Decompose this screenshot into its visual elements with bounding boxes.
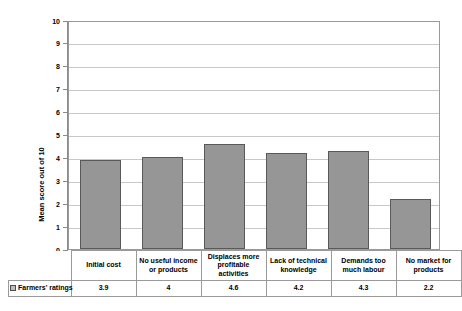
value-cell-1: 4 (136, 281, 201, 297)
y-tick-mark-7 (63, 89, 67, 90)
y-tick-mark-2 (63, 204, 67, 205)
y-tick-label-9: 9 (18, 40, 60, 47)
y-tick-label-3: 3 (18, 178, 60, 185)
gridline-4 (69, 159, 439, 160)
legend-swatch-icon (10, 285, 16, 291)
table-row-categories: Initial costNo useful income or products… (9, 251, 462, 281)
bar-5 (390, 199, 431, 249)
gridline-5 (69, 136, 439, 137)
y-tick-label-7: 7 (18, 86, 60, 93)
y-tick-mark-5 (63, 135, 67, 136)
y-tick-label-10: 10 (18, 18, 60, 25)
value-cell-3: 4.2 (266, 281, 331, 297)
y-tick-label-1: 1 (18, 224, 60, 231)
bar-2 (204, 144, 245, 249)
category-cell-1: No useful income or products (136, 251, 201, 281)
y-tick-mark-8 (63, 66, 67, 67)
gridline-1 (69, 228, 439, 229)
bar-1 (142, 157, 183, 249)
bar-4 (328, 151, 369, 249)
legend-label: Farmers' ratings (18, 284, 73, 291)
bar-3 (266, 153, 307, 249)
y-tick-mark-6 (63, 112, 67, 113)
y-tick-mark-3 (63, 181, 67, 182)
gridline-9 (69, 44, 439, 45)
value-cell-2: 4.6 (201, 281, 266, 297)
gridline-2 (69, 205, 439, 206)
value-cell-4: 4.3 (331, 281, 396, 297)
gridline-3 (69, 182, 439, 183)
category-cell-5: No market for products (396, 251, 461, 281)
gridline-7 (69, 90, 439, 91)
category-cell-0: Initial cost (71, 251, 136, 281)
y-tick-mark-9 (63, 43, 67, 44)
y-tick-label-6: 6 (18, 109, 60, 116)
bar-0 (80, 160, 121, 249)
data-table: Initial costNo useful income or products… (8, 250, 462, 297)
legend-farmers-ratings: Farmers' ratings (9, 281, 72, 297)
table-corner-cell (9, 251, 72, 281)
gridline-6 (69, 113, 439, 114)
value-cell-0: 3.9 (71, 281, 136, 297)
y-tick-label-4: 4 (18, 155, 60, 162)
value-cell-5: 2.2 (396, 281, 461, 297)
y-tick-mark-1 (63, 227, 67, 228)
y-tick-label-8: 8 (18, 63, 60, 70)
plot-block (68, 21, 440, 250)
y-tick-label-5: 5 (18, 132, 60, 139)
gridline-8 (69, 67, 439, 68)
table-row-values: Farmers' ratings 3.944.64.24.32.2 (9, 281, 462, 297)
y-tick-label-2: 2 (18, 201, 60, 208)
y-tick-mark-10 (63, 21, 67, 22)
category-cell-3: Lack of technical knowledge (266, 251, 331, 281)
category-cell-2: Displaces more profitable activities (201, 251, 266, 281)
y-tick-mark-4 (63, 158, 67, 159)
category-cell-4: Demands too much labour (331, 251, 396, 281)
plot-area (68, 21, 440, 250)
